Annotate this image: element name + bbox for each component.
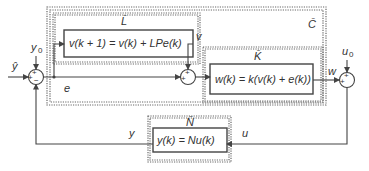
block-l-equation: v(k + 1) = v(k) + LPe(k) (69, 37, 182, 49)
block-k-equation: w(k) = k(v(k) + e(k)) (215, 73, 311, 85)
u0-label: u (342, 45, 348, 57)
block-n-label: N̄ (186, 116, 194, 128)
y-feedback-line (36, 85, 153, 145)
u0-subscript: 0 (349, 50, 354, 59)
u-label: u (242, 127, 248, 139)
sum-junction-right: + + (340, 71, 355, 88)
block-c-label: C̄ (308, 18, 316, 30)
svg-text:+: + (340, 77, 345, 86)
y0-subscript: 0 (38, 46, 43, 55)
sum-junction-left: + + − (28, 68, 44, 85)
svg-text:+: + (344, 71, 349, 80)
y0-label: y (30, 41, 38, 53)
block-c-frame (47, 7, 326, 105)
sum-junction-middle: + + (181, 68, 196, 85)
input-label: ŷ (11, 60, 19, 72)
svg-text:+: + (181, 74, 186, 83)
y-label: y (128, 127, 136, 139)
svg-text:−: − (34, 76, 39, 85)
e-label: e (64, 82, 70, 94)
svg-text:+: + (28, 73, 33, 82)
block-diagram: C̄ L̄ v(k + 1) = v(k) + LPe(k) K̄ w(k) =… (0, 0, 369, 171)
block-n-equation: y(k) = Nu(k) (156, 134, 215, 146)
svg-text:+: + (185, 68, 190, 77)
block-k-label: K̄ (254, 50, 262, 62)
block-l-label: L̄ (121, 15, 127, 27)
v-label: v (196, 30, 203, 42)
w-label: w (328, 65, 337, 77)
